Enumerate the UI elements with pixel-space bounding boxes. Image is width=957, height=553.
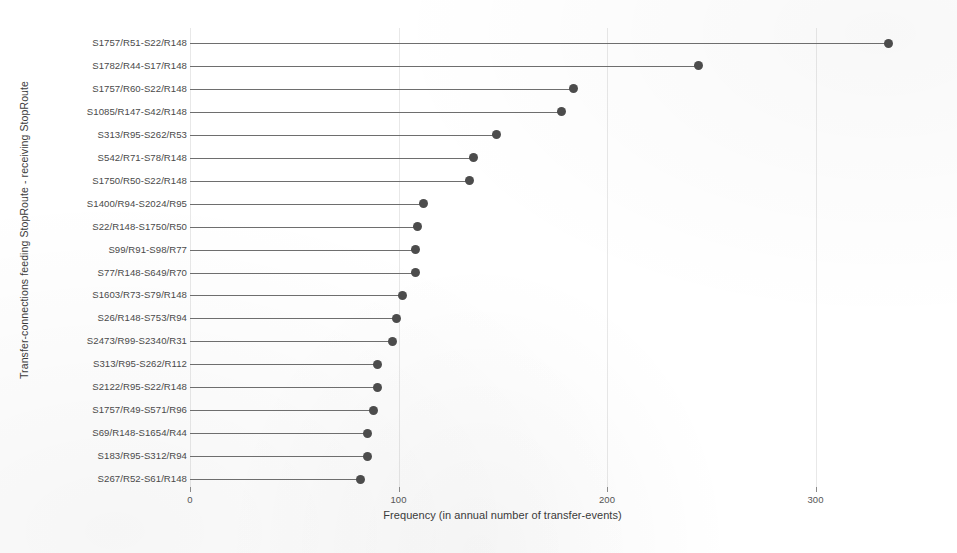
data-point-marker [465, 176, 474, 185]
data-point-marker [363, 429, 372, 438]
x-tick-mark [190, 487, 191, 492]
lollipop-stem [190, 410, 373, 411]
data-point-marker [388, 337, 397, 346]
category-label: S1757/R51-S22/R148 [92, 38, 187, 48]
data-point-marker [884, 39, 893, 48]
category-label: S1757/R49-S571/R96 [92, 405, 187, 415]
lollipop-stem [190, 273, 415, 274]
lollipop-stem [190, 227, 417, 228]
x-gridline [399, 28, 400, 490]
data-point-marker [569, 84, 578, 93]
data-point-marker [694, 61, 703, 70]
x-tick-mark [607, 487, 608, 492]
x-gridline [816, 28, 817, 490]
lollipop-stem [190, 112, 561, 113]
lollipop-stem [190, 456, 367, 457]
data-point-marker [411, 268, 420, 277]
data-point-marker [557, 107, 566, 116]
category-label: S267/R52-S61/R148 [98, 474, 187, 484]
category-label: S1757/R60-S22/R148 [92, 84, 187, 94]
category-label: S1782/R44-S17/R148 [92, 61, 187, 71]
lollipop-stem [190, 89, 574, 90]
lollipop-stem [190, 364, 378, 365]
category-label: S542/R71-S78/R148 [98, 153, 187, 163]
x-tick-mark [816, 487, 817, 492]
data-point-marker [469, 153, 478, 162]
x-gridline [190, 28, 191, 490]
category-label: S313/R95-S262/R112 [93, 359, 187, 369]
y-axis-title: Transfer-connections feeding StopRoute -… [18, 0, 32, 480]
data-point-marker [411, 245, 420, 254]
data-point-marker [369, 406, 378, 415]
x-tick-label: 100 [379, 494, 419, 505]
lollipop-stem [190, 204, 424, 205]
data-point-marker [419, 199, 428, 208]
lollipop-stem [190, 43, 888, 44]
lollipop-stem [190, 181, 469, 182]
category-label: S1603/R73-S79/R148 [92, 290, 187, 300]
x-tick-label: 300 [796, 494, 836, 505]
x-axis-title: Frequency (in annual number of transfer-… [190, 509, 815, 521]
category-label: S69/R148-S1654/R44 [92, 428, 187, 438]
x-tick-label: 0 [170, 494, 210, 505]
lollipop-stem [190, 250, 415, 251]
data-point-marker [492, 130, 501, 139]
category-label: S183/R95-S312/R94 [98, 451, 187, 461]
category-label: S1400/R94-S2024/R95 [87, 199, 187, 209]
lollipop-stem [190, 387, 378, 388]
lollipop-stem [190, 158, 474, 159]
x-gridline [607, 28, 608, 490]
category-label: S2473/R99-S2340/R31 [87, 336, 187, 346]
category-label: S2122/R95-S22/R148 [92, 382, 187, 392]
category-label: S77/R148-S649/R70 [98, 268, 187, 278]
data-point-marker [356, 475, 365, 484]
data-point-marker [398, 291, 407, 300]
category-label: S99/R91-S98/R77 [108, 245, 187, 255]
x-tick-label: 200 [587, 494, 627, 505]
category-label: S22/R148-S1750/R50 [92, 222, 187, 232]
x-tick-mark [399, 487, 400, 492]
data-point-marker [363, 452, 372, 461]
data-point-marker [413, 222, 422, 231]
lollipop-stem [190, 479, 361, 480]
plot-area: 0100200300S1757/R51-S22/R148S1782/R44-S1… [0, 0, 957, 553]
lollipop-stem [190, 295, 403, 296]
category-label: S313/R95-S262/R53 [98, 130, 187, 140]
lollipop-stem [190, 318, 396, 319]
lollipop-stem [190, 135, 496, 136]
lollipop-stem [190, 66, 699, 67]
category-label: S1085/R147-S42/R148 [87, 107, 187, 117]
category-label: S1750/R50-S22/R148 [92, 176, 187, 186]
data-point-marker [373, 383, 382, 392]
category-label: S26/R148-S753/R94 [98, 313, 187, 323]
lollipop-stem [190, 341, 392, 342]
data-point-marker [392, 314, 401, 323]
data-point-marker [373, 360, 382, 369]
chart-figure: Transfer-connections feeding StopRoute -… [0, 0, 957, 553]
lollipop-stem [190, 433, 367, 434]
